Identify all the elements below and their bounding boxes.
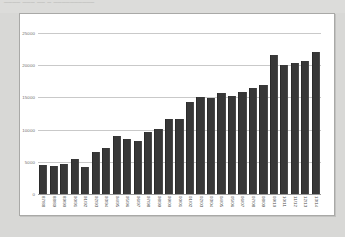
x-axis-tick-label: 98/99 xyxy=(156,196,161,207)
bar-slot xyxy=(48,33,58,194)
bar[interactable] xyxy=(301,61,309,194)
bar[interactable] xyxy=(238,92,246,194)
bar-slot xyxy=(143,33,153,194)
x-axis-tick-label: 00/01 xyxy=(177,196,182,207)
bar[interactable] xyxy=(175,119,183,194)
bar[interactable] xyxy=(71,159,79,194)
bar-slot xyxy=(185,33,195,194)
y-axis-tick-label: 15000 xyxy=(22,95,35,100)
bar-slot xyxy=(38,33,48,194)
x-axis-tick-label: 99/00 xyxy=(167,196,172,207)
x-label-slot: 99/00 xyxy=(164,195,174,216)
bar[interactable] xyxy=(249,88,257,194)
bar-slot xyxy=(174,33,184,194)
x-axis-tick-label: 06/07 xyxy=(240,196,245,207)
x-label-slot: 94/95 xyxy=(111,195,121,216)
x-label-slot: 13/14 xyxy=(311,195,321,216)
x-axis-tick-label: 93/94 xyxy=(104,196,109,207)
bar[interactable] xyxy=(102,148,110,194)
bar-slot xyxy=(101,33,111,194)
x-label-slot: 92/93 xyxy=(90,195,100,216)
bar[interactable] xyxy=(144,132,152,194)
bar-slot xyxy=(153,33,163,194)
x-label-slot: 87/88 xyxy=(38,195,48,216)
x-label-slot: 88/89 xyxy=(48,195,58,216)
bar-slot xyxy=(216,33,226,194)
bar[interactable] xyxy=(39,165,47,194)
x-label-slot: 03/04 xyxy=(206,195,216,216)
bar[interactable] xyxy=(186,102,194,194)
x-label-slot: 89/90 xyxy=(59,195,69,216)
y-axis-tick-label: 10000 xyxy=(22,127,35,132)
bar[interactable] xyxy=(312,52,320,194)
x-label-slot: 95/96 xyxy=(122,195,132,216)
bar[interactable] xyxy=(113,136,121,194)
x-axis-tick-label: 95/96 xyxy=(125,196,130,207)
bar-slot xyxy=(290,33,300,194)
x-axis-tick-label: 13/14 xyxy=(313,196,318,207)
bar-slot xyxy=(227,33,237,194)
bar[interactable] xyxy=(291,63,299,194)
x-axis-tick-label: 09/10 xyxy=(271,196,276,207)
x-label-slot: 98/99 xyxy=(153,195,163,216)
x-axis-tick-label: 89/90 xyxy=(62,196,67,207)
bar-slot xyxy=(90,33,100,194)
bar[interactable] xyxy=(81,167,89,194)
x-axis-tick-label: 94/95 xyxy=(114,196,119,207)
x-label-slot: 02/03 xyxy=(195,195,205,216)
chart-panel: 2500020000150001000050000 87/8888/8989/9… xyxy=(19,13,335,216)
bar-slot xyxy=(80,33,90,194)
bar-slot xyxy=(195,33,205,194)
bar[interactable] xyxy=(280,65,288,194)
x-label-slot: 11/12 xyxy=(290,195,300,216)
bar-slot xyxy=(237,33,247,194)
bar[interactable] xyxy=(259,85,267,194)
page-top-strip: ____ ___ __ _ __________ xyxy=(0,0,345,13)
bar-slot xyxy=(311,33,321,194)
x-label-slot: 90/91 xyxy=(69,195,79,216)
x-axis-tick-label: 10/11 xyxy=(282,196,287,207)
x-axis-tick-label: 02/03 xyxy=(198,196,203,207)
bar-slot xyxy=(122,33,132,194)
bar-slot xyxy=(269,33,279,194)
x-label-slot: 07/08 xyxy=(248,195,258,216)
bar-slot xyxy=(164,33,174,194)
x-axis-tick-label: 11/12 xyxy=(292,196,297,207)
x-axis-tick-label: 96/97 xyxy=(135,196,140,207)
plot-area: 2500020000150001000050000 xyxy=(38,33,321,194)
bar[interactable] xyxy=(92,152,100,194)
x-axis-labels: 87/8888/8989/9090/9191/9292/9393/9494/95… xyxy=(38,195,321,216)
bar-series xyxy=(38,33,321,194)
bar[interactable] xyxy=(123,139,131,194)
bar[interactable] xyxy=(207,98,215,194)
cut-off-heading-text: ____ ___ __ _ __________ xyxy=(4,0,94,2)
bar[interactable] xyxy=(217,93,225,194)
x-label-slot: 06/07 xyxy=(237,195,247,216)
x-label-slot: 04/05 xyxy=(216,195,226,216)
x-axis-tick-label: 08/09 xyxy=(261,196,266,207)
bar-slot xyxy=(69,33,79,194)
bar[interactable] xyxy=(154,129,162,194)
bar-slot xyxy=(111,33,121,194)
x-axis-tick-label: 88/89 xyxy=(51,196,56,207)
bar[interactable] xyxy=(134,141,142,194)
x-axis-tick-label: 92/93 xyxy=(93,196,98,207)
bar[interactable] xyxy=(50,166,58,194)
bar[interactable] xyxy=(60,164,68,194)
x-label-slot: 10/11 xyxy=(279,195,289,216)
y-axis-tick-label: 25000 xyxy=(22,31,35,36)
x-axis-tick-label: 04/05 xyxy=(219,196,224,207)
bar[interactable] xyxy=(165,119,173,194)
bar-slot xyxy=(59,33,69,194)
y-axis-tick-label: 20000 xyxy=(22,63,35,68)
x-label-slot: 91/92 xyxy=(80,195,90,216)
x-label-slot: 97/98 xyxy=(143,195,153,216)
bar[interactable] xyxy=(228,96,236,194)
x-label-slot: 96/97 xyxy=(132,195,142,216)
bar[interactable] xyxy=(270,55,278,194)
x-label-slot: 09/10 xyxy=(269,195,279,216)
x-label-slot: 05/06 xyxy=(227,195,237,216)
plot-wrapper: 2500020000150001000050000 87/8888/8989/9… xyxy=(20,14,334,215)
bar-slot xyxy=(258,33,268,194)
bar[interactable] xyxy=(196,97,204,194)
